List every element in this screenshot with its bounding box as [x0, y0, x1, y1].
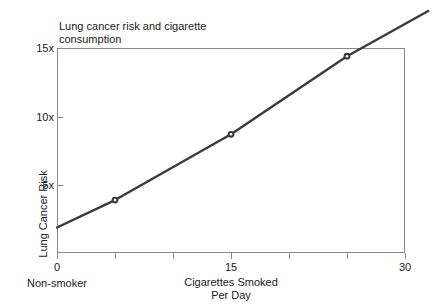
chart-title: Lung cancer risk and cigarette consumpti…	[59, 20, 309, 46]
x-tick-mark-10	[173, 253, 174, 259]
x-tick-mark-20	[289, 253, 290, 259]
x-tick-label-0: 0	[37, 262, 77, 273]
y-axis-title-wrap: Lung Cancer Risk	[22, 90, 23, 91]
y-tick-mark-5x	[57, 185, 63, 186]
x-axis-title: Cigarettes Smoked Per Day	[141, 276, 321, 302]
x-tick-label-30: 30	[385, 262, 425, 273]
x-tick-mark-5	[115, 253, 116, 259]
y-tick-mark-10x	[57, 117, 63, 118]
x-tick-mark-25	[347, 253, 348, 259]
x-tick-mark-15	[231, 253, 232, 259]
x-tick-mark-0	[57, 253, 58, 259]
y-tick-label-15x: 15x	[24, 43, 54, 54]
lung-cancer-risk-chart: Lung cancer risk and cigarette consumpti…	[0, 0, 443, 304]
x-axis-sublabel-non-smoker: Non-smoker	[12, 277, 102, 289]
y-tick-label-10x: 10x	[24, 112, 54, 123]
x-tick-mark-30	[405, 253, 406, 259]
x-tick-label-15: 15	[211, 262, 251, 273]
y-axis-title: Lung Cancer Risk	[37, 154, 49, 274]
plot-area-frame	[57, 48, 405, 253]
